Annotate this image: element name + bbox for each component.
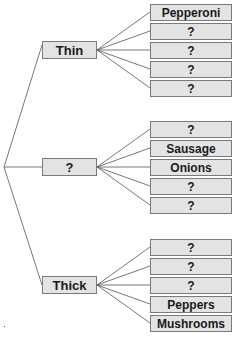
leaf-box: ? [150, 178, 232, 195]
leaf-box: ? [150, 277, 232, 294]
leaf-box: Peppers [150, 296, 232, 313]
branch-thin: Thin [42, 41, 97, 59]
leaf-box: Onions [150, 159, 232, 176]
leaf-box: ? [150, 258, 232, 275]
leaf-box: ? [150, 42, 232, 59]
branch-thick: Thick [42, 276, 97, 294]
branch-unknown: ? [42, 158, 97, 176]
leaf-box: ? [150, 197, 232, 214]
leaf-box: ? [150, 61, 232, 78]
leaf-box: Sausage [150, 140, 232, 157]
leaf-box: ? [150, 80, 232, 97]
leaf-box: ? [150, 239, 232, 256]
leaf-box: Mushrooms [150, 315, 232, 332]
leaf-box: Pepperoni [150, 4, 232, 21]
stray-dot [4, 326, 5, 327]
leaf-box: ? [150, 23, 232, 40]
leaf-box: ? [150, 121, 232, 138]
